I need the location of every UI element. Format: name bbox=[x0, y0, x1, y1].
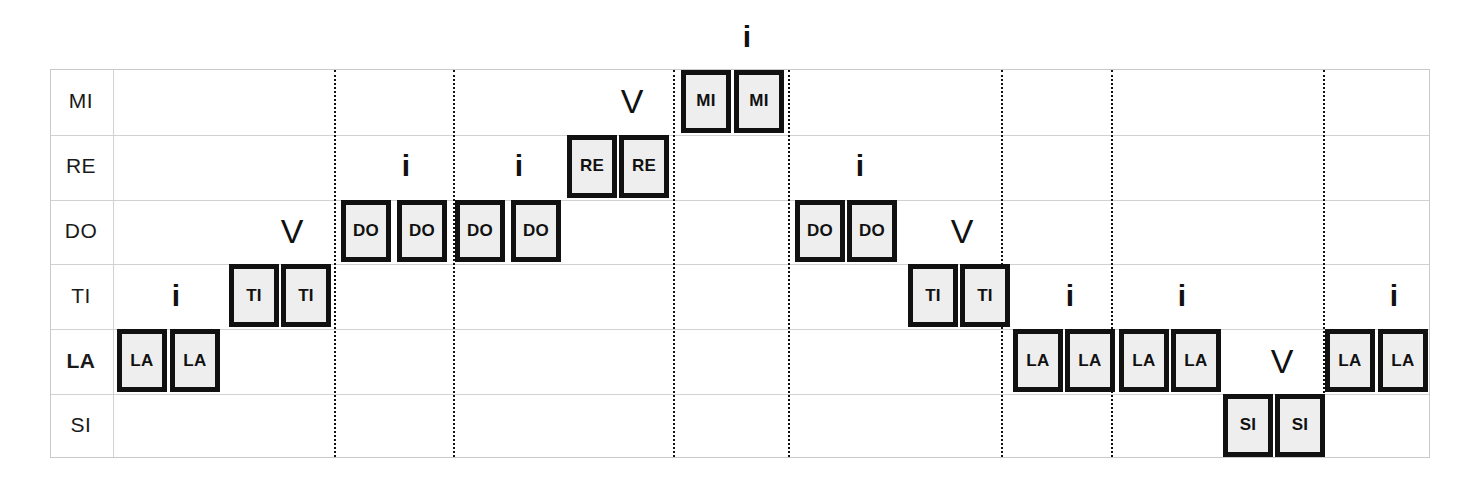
note-box-ti[interactable]: TI bbox=[281, 264, 331, 327]
note-box-ti[interactable]: TI bbox=[229, 264, 279, 327]
note-box-la[interactable]: LA bbox=[1171, 329, 1221, 392]
step-down-marker-icon: V bbox=[942, 199, 982, 264]
note-box-re[interactable]: RE bbox=[567, 135, 617, 198]
row-label-mi: MI bbox=[50, 69, 112, 134]
step-up-marker-icon: i bbox=[156, 263, 196, 328]
step-down-marker-icon: V bbox=[1262, 328, 1302, 393]
note-box-do[interactable]: DO bbox=[511, 200, 561, 263]
step-up-marker-icon: i bbox=[840, 134, 880, 199]
note-box-la[interactable]: LA bbox=[170, 329, 220, 392]
note-box-do[interactable]: DO bbox=[397, 200, 447, 263]
phrase-divider-6 bbox=[1111, 70, 1113, 457]
step-up-marker-icon: i bbox=[1374, 263, 1414, 328]
note-box-la[interactable]: LA bbox=[1065, 329, 1115, 392]
note-box-mi[interactable]: MI bbox=[734, 70, 784, 133]
step-down-marker-icon: V bbox=[612, 69, 652, 134]
phrase-divider-3 bbox=[673, 70, 675, 457]
note-box-si[interactable]: SI bbox=[1275, 394, 1325, 457]
row-label-la: LA bbox=[50, 328, 112, 393]
step-up-marker-icon: i bbox=[386, 134, 426, 199]
phrase-divider-4 bbox=[788, 70, 790, 457]
row-label-si: SI bbox=[50, 393, 112, 458]
diagram-canvas: MIREDOTILASI iViiViiViiVi LALATITIDODODO… bbox=[0, 0, 1471, 478]
step-up-marker-icon: i bbox=[727, 4, 767, 69]
note-box-mi[interactable]: MI bbox=[681, 70, 731, 133]
note-box-re[interactable]: RE bbox=[619, 135, 669, 198]
note-box-la[interactable]: LA bbox=[1013, 329, 1063, 392]
row-label-re: RE bbox=[50, 134, 112, 199]
step-down-marker-icon: V bbox=[272, 199, 312, 264]
note-box-si[interactable]: SI bbox=[1223, 394, 1273, 457]
note-box-do[interactable]: DO bbox=[795, 200, 845, 263]
note-box-ti[interactable]: TI bbox=[960, 264, 1010, 327]
note-box-la[interactable]: LA bbox=[1378, 329, 1428, 392]
step-up-marker-icon: i bbox=[1162, 263, 1202, 328]
row-gridline bbox=[51, 200, 1429, 201]
row-gridline bbox=[51, 329, 1429, 330]
note-box-do[interactable]: DO bbox=[341, 200, 391, 263]
step-up-marker-icon: i bbox=[499, 134, 539, 199]
step-up-marker-icon: i bbox=[1050, 263, 1090, 328]
phrase-divider-1 bbox=[334, 70, 336, 457]
note-box-do[interactable]: DO bbox=[847, 200, 897, 263]
note-box-la[interactable]: LA bbox=[1119, 329, 1169, 392]
row-gridline bbox=[51, 135, 1429, 136]
note-box-la[interactable]: LA bbox=[117, 329, 167, 392]
row-label-do: DO bbox=[50, 199, 112, 264]
note-box-ti[interactable]: TI bbox=[908, 264, 958, 327]
note-box-do[interactable]: DO bbox=[455, 200, 505, 263]
phrase-divider-2 bbox=[453, 70, 455, 457]
row-label-ti: TI bbox=[50, 263, 112, 328]
note-box-la[interactable]: LA bbox=[1325, 329, 1375, 392]
